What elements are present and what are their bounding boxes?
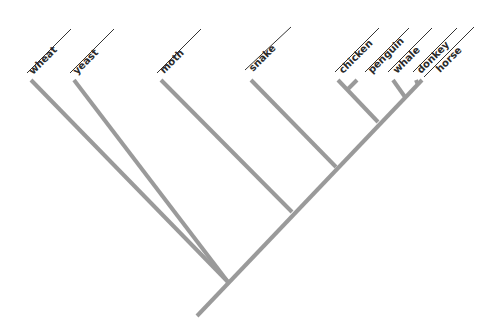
branch-wheat [31,80,228,282]
branch-whale [393,80,405,97]
label-snake: snake [247,42,278,73]
trunk-branch [197,80,422,316]
cladogram: wheat yeast moth snake chicken penguin w… [0,0,502,335]
branch-bird-clade [338,80,378,122]
label-yeast: yeast [71,47,101,77]
branch-donkey [416,80,418,85]
label-wheat: wheat [27,44,59,76]
branch-yeast [74,80,228,282]
branch-penguin [347,80,357,90]
label-moth: moth [158,47,186,75]
branch-snake [251,80,336,167]
